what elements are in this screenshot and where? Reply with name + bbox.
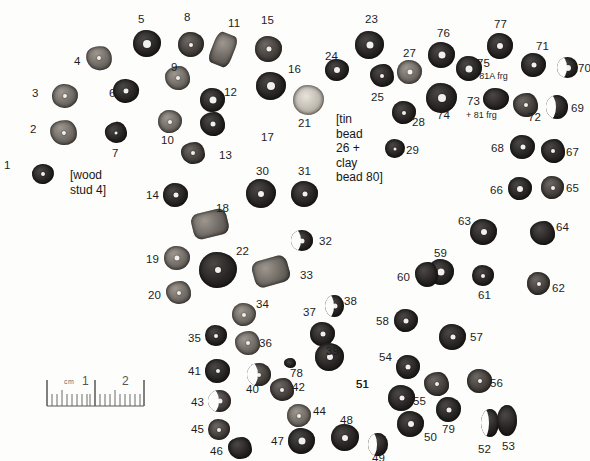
bead-71 [521,53,546,77]
bead-label-29: 29 [406,145,419,157]
bead-label-47: 47 [271,436,284,448]
bead-label-25: 25 [371,92,384,104]
bead-hole-36 [246,341,250,345]
annotation-wood-stud: [wood stud 4] [70,168,106,197]
bead-67 [541,139,565,163]
bead-hole-13 [191,151,195,155]
bead-label-75: 75 [477,58,490,70]
bead-hole-48 [342,435,348,441]
bead-hole-70 [565,65,571,71]
bead-36 [235,331,260,355]
bead-label-56: 56 [490,378,503,390]
bead-12 [200,88,225,112]
bead-hole-74 [438,94,446,102]
bead-hole-40 [257,373,261,377]
bead-hole-38 [332,304,337,309]
bead-70 [557,57,578,78]
bead-47 [288,428,315,454]
bead-68 [510,135,535,159]
bead-label-79: 79 [442,424,455,436]
bead-1 [31,163,56,186]
bead-4 [84,44,114,72]
bead-label-39: 39 [326,346,339,358]
bead-3 [51,83,79,109]
bead-hole-50 [408,421,414,427]
bead-label-2: 2 [30,124,37,136]
bead-38 [325,295,344,317]
bead-hole-10 [168,120,172,124]
bead-hole-24 [334,67,340,73]
bead-label-12: 12 [224,87,237,99]
bead-label-67: 67 [566,147,579,159]
bead-label-34: 34 [256,299,269,311]
bead-label-28: 28 [412,117,425,129]
bead-label-14: 14 [146,190,159,202]
bead-label-52: 52 [478,444,491,456]
bead-hole-9 [176,76,180,80]
bead-label-65: 65 [566,183,579,195]
bead-hole-28 [402,111,406,115]
scale-bar: cm 1 2 [44,372,152,412]
bead-hole-51b [399,396,404,401]
bead-50 [397,411,424,437]
bead-8 [178,32,204,57]
bead-label-73: 73 [467,96,480,108]
bead-label-51b: 51 [356,379,369,391]
bead-hole-6 [123,88,128,93]
bead-45 [208,419,230,440]
bead-51b [388,385,415,411]
bead-30 [246,179,276,208]
bead-label-22: 22 [236,246,249,258]
bead-label-69: 69 [571,103,584,115]
bead-label-16: 16 [288,64,301,76]
bead-label-23: 23 [365,14,378,26]
bead-label-30: 30 [256,166,269,178]
bead-label-63: 63 [458,216,471,228]
bead-22 [199,252,237,288]
bead-label-17: 17 [261,132,274,144]
bead-15 [255,36,282,62]
bead-hole-37 [320,332,325,337]
bead-hole-57 [450,335,455,340]
bead-hole-71 [531,63,536,68]
bead-label-36: 36 [259,338,272,350]
bead-54 [396,355,420,379]
bead-label-37: 37 [303,307,316,319]
bead-hole-5 [143,40,151,48]
bead-hole-22 [215,267,221,273]
bead-label-24: 24 [325,51,338,63]
bead-label-50: 50 [424,432,437,444]
scale-tick-2-label: 2 [122,374,129,388]
bead-label-49: 49 [372,453,385,461]
bead-label-57: 57 [470,332,483,344]
bead-hole-14 [173,193,178,198]
bead-27 [397,60,422,84]
bead-20 [166,281,191,304]
bead-77 [487,33,513,59]
bead-56 [467,369,492,393]
bead-69 [546,95,568,119]
bead-62 [527,272,550,295]
bead-label-7: 7 [112,148,119,160]
bead-label-6: 6 [109,88,116,100]
bead-6 [112,78,140,104]
bead-hole-15 [266,47,271,52]
bead-label-74: 74 [437,110,450,122]
bead-hole-67 [551,149,555,153]
bead-label-8: 8 [184,12,191,24]
bead-label-1: 1 [4,160,11,172]
bead-5 [133,30,161,57]
bead-hole-75 [466,65,473,72]
bead-label-61: 61 [478,290,491,302]
bead-label-53: 53 [502,441,515,453]
bead-hole-2 [61,130,65,134]
bead-label-71: 71 [536,41,549,53]
bead-2 [49,119,78,147]
bead-hole-19 [175,256,180,261]
bead-hole-59 [438,269,445,276]
bead-hole-62 [537,282,541,286]
bead-34 [232,303,256,326]
bead-hole-58 [404,318,409,323]
bead-label-54: 54 [379,352,392,364]
bead-label-21: 21 [298,118,311,130]
